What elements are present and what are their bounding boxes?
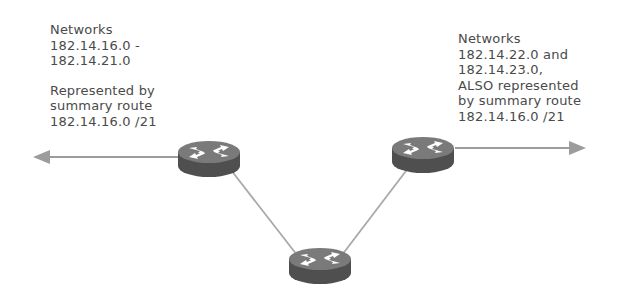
left-label-line: Represented by [50,83,157,99]
left-label-line: 182.14.16.0 /21 [50,114,157,130]
left-label-line: 182.14.21.0 [50,53,157,69]
right-label-line: 182.14.22.0 and [458,47,581,63]
right-label-line: 182.14.16.0 /21 [458,109,581,125]
link-left-to-bottom [231,170,297,255]
router-bottom-icon[interactable] [289,248,351,284]
left-label-line: 182.14.16.0 - [50,38,157,54]
right-network-label: Networks 182.14.22.0 and 182.14.23.0, AL… [458,31,581,124]
right-label-line: 182.14.23.0, [458,62,581,78]
arrow-right [455,141,586,155]
left-network-label: Networks 182.14.16.0 - 182.14.21.0 Repre… [50,22,157,129]
left-label-line: Networks [50,22,157,38]
network-diagram: Networks 182.14.16.0 - 182.14.21.0 Repre… [0,0,619,297]
link-right-to-bottom [342,167,409,255]
left-label-line: summary route [50,98,157,114]
right-label-line: by summary route [458,93,581,109]
router-left-icon[interactable] [178,141,240,177]
arrow-left [33,150,178,164]
right-label-line: Networks [458,31,581,47]
right-label-line: ALSO represented [458,78,581,94]
router-right-icon[interactable] [392,137,454,173]
